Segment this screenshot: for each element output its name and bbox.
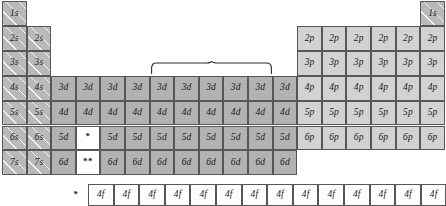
orbital-cell-d-r7-c5: 6d: [100, 150, 125, 175]
orbital-cell-p-r5-c13-label: 5p: [305, 108, 315, 118]
orbital-cell-d-r6-c12: 5d: [273, 126, 298, 151]
orbital-cell-f-8: 4f: [267, 184, 293, 206]
orbital-cell-p-r6-c17: 6p: [396, 126, 421, 151]
orbital-cell-d-r7-c3: 6d: [51, 150, 76, 175]
orbital-cell-f-4: 4f: [165, 184, 191, 206]
f-block-footnote-marker-label: *: [74, 190, 79, 199]
orbital-cell-d-r7-c6-label: 6d: [132, 158, 142, 168]
footnote-marker-actinide: **: [76, 150, 101, 175]
orbital-cell-s-r3-c2-label: 3s: [35, 58, 44, 68]
footnote-marker-lanthanide-label: *: [86, 132, 91, 141]
orbital-cell-p-r2-c13: 2p: [297, 26, 322, 51]
orbital-cell-d-r7-c9: 6d: [199, 150, 224, 175]
orbital-cell-p-r6-c15: 6p: [346, 126, 371, 151]
orbital-cell-s-r2-c1-label: 2s: [10, 33, 19, 43]
orbital-cell-f-14: 4f: [421, 184, 446, 206]
orbital-cell-d-r6-c12-label: 5d: [280, 133, 290, 143]
orbital-cell-d-r7-c11-label: 6d: [255, 158, 265, 168]
orbital-cell-p-r3-c13-label: 3p: [305, 58, 315, 68]
orbital-cell-d-r4-c8: 3d: [174, 76, 199, 101]
orbital-cell-d-r6-c6: 5d: [125, 126, 150, 151]
orbital-cell-s-r3-c2: 3s: [27, 51, 52, 76]
orbital-cell-d-r4-c11-label: 3d: [255, 83, 265, 93]
orbital-cell-d-r5-c6: 4d: [125, 101, 150, 126]
orbital-cell-d-r4-c10-label: 3d: [231, 83, 241, 93]
orbital-cell-d-r7-c5-label: 6d: [108, 158, 118, 168]
orbital-cell-f-5-label: 4f: [199, 190, 207, 200]
transition-metal-brace: [151, 61, 272, 74]
orbital-cell-p-r3-c18: 3p: [420, 51, 445, 76]
orbital-cell-d-r4-c4: 3d: [76, 76, 101, 101]
orbital-cell-d-r7-c10: 6d: [223, 150, 248, 175]
orbital-cell-s-r6-c1-label: 6s: [10, 133, 19, 143]
orbital-cell-p-r2-c18-label: 2p: [428, 33, 438, 43]
orbital-cell-p-r6-c14: 6p: [322, 126, 347, 151]
orbital-cell-s-r7-c1: 7s: [2, 150, 27, 175]
orbital-cell-p-r6-c18-label: 6p: [428, 133, 438, 143]
footnote-marker-actinide-label: **: [83, 157, 93, 166]
orbital-cell-d-r5-c8-label: 4d: [182, 108, 192, 118]
orbital-cell-p-r4-c13-label: 4p: [305, 83, 315, 93]
orbital-cell-d-r5-c3-label: 4d: [59, 108, 69, 118]
orbital-cell-d-r7-c10-label: 6d: [231, 158, 241, 168]
orbital-cell-d-r5-c12-label: 4d: [280, 108, 290, 118]
orbital-cell-d-r7-c12-label: 6d: [280, 158, 290, 168]
orbital-cell-s-r4-c1-label: 4s: [10, 83, 19, 93]
orbital-cell-d-r5-c10: 4d: [223, 101, 248, 126]
orbital-cell-s-r5-c1: 5s: [2, 101, 27, 126]
orbital-cell-s-r1-c1-label: 1s: [10, 8, 19, 17]
orbital-cell-d-r6-c10: 5d: [223, 126, 248, 151]
orbital-cell-p-r2-c16-label: 2p: [378, 33, 388, 43]
orbital-cell-d-r5-c10-label: 4d: [231, 108, 241, 118]
orbital-cell-s-r3-c1: 3s: [2, 51, 27, 76]
orbital-cell-p-r5-c16: 5p: [371, 101, 396, 126]
orbital-cell-p-r6-c16-label: 6p: [378, 133, 388, 143]
orbital-cell-d-r5-c4-label: 4d: [83, 108, 93, 118]
orbital-cell-d-r6-c9-label: 5d: [206, 133, 216, 143]
orbital-cell-p-r2-c17-label: 2p: [403, 33, 413, 43]
orbital-cell-d-r6-c8-label: 5d: [182, 133, 192, 143]
orbital-cell-p-r3-c13: 3p: [297, 51, 322, 76]
orbital-cell-s-r2-c1: 2s: [2, 26, 27, 51]
orbital-cell-p-r4-c13: 4p: [297, 76, 322, 101]
orbital-cell-f-3: 4f: [139, 184, 165, 206]
orbital-cell-d-r4-c10: 3d: [223, 76, 248, 101]
orbital-cell-p-r3-c15-label: 3p: [354, 58, 364, 68]
orbital-cell-d-r4-c12-label: 3d: [280, 83, 290, 93]
orbital-cell-d-r6-c11-label: 5d: [255, 133, 265, 143]
orbital-cell-p-r6-c13-label: 6p: [305, 133, 315, 143]
orbital-cell-p-r5-c16-label: 5p: [378, 108, 388, 118]
orbital-cell-f-12-label: 4f: [379, 190, 387, 200]
orbital-cell-f-7: 4f: [242, 184, 268, 206]
orbital-cell-f-1-label: 4f: [97, 190, 105, 200]
orbital-cell-f-12: 4f: [370, 184, 396, 206]
orbital-cell-d-r5-c3: 4d: [51, 101, 76, 126]
orbital-cell-p-r2-c18: 2p: [420, 26, 445, 51]
orbital-cell-f-6-label: 4f: [225, 190, 233, 200]
orbital-cell-d-r4-c6-label: 3d: [132, 83, 142, 93]
orbital-cell-d-r4-c9-label: 3d: [206, 83, 216, 93]
orbital-cell-d-r6-c10-label: 5d: [231, 133, 241, 143]
orbital-cell-f-8-label: 4f: [276, 190, 284, 200]
orbital-cell-s-helium: 1s: [420, 1, 445, 26]
orbital-cell-p-r4-c15-label: 4p: [354, 83, 364, 93]
orbital-cell-p-r5-c18: 5p: [420, 101, 445, 126]
orbital-cell-d-r4-c9: 3d: [199, 76, 224, 101]
orbital-cell-p-r2-c13-label: 2p: [305, 33, 315, 43]
orbital-cell-d-r7-c11: 6d: [248, 150, 273, 175]
orbital-cell-s-r4-c1: 4s: [2, 76, 27, 101]
orbital-cell-p-r2-c15-label: 2p: [354, 33, 364, 43]
orbital-cell-p-r6-c14-label: 6p: [329, 133, 339, 143]
orbital-cell-s-r4-c2-label: 4s: [35, 83, 44, 93]
orbital-cell-f-14-label: 4f: [430, 190, 438, 200]
orbital-cell-p-r2-c14: 2p: [322, 26, 347, 51]
orbital-cell-d-r5-c8: 4d: [174, 101, 199, 126]
orbital-cell-f-2: 4f: [114, 184, 140, 206]
orbital-cell-d-r5-c7: 4d: [150, 101, 175, 126]
orbital-cell-d-r6-c7-label: 5d: [157, 133, 167, 143]
orbital-cell-p-r6-c13: 6p: [297, 126, 322, 151]
orbital-cell-s-r3-c1-label: 3s: [10, 58, 19, 68]
orbital-cell-d-r7-c6: 6d: [125, 150, 150, 175]
orbital-cell-d-r7-c7-label: 6d: [157, 158, 167, 168]
